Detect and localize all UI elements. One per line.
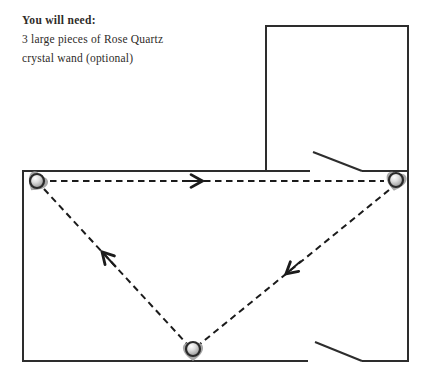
rose-quartz-icon <box>389 173 403 187</box>
crystal-top-right <box>384 171 408 193</box>
arrow-up-left-icon <box>103 253 116 267</box>
crystal-bottom-center <box>183 342 203 361</box>
arrow-down-left-icon <box>287 261 301 273</box>
lower-door-leaf <box>315 342 362 361</box>
book-page: You will need: 3 large pieces of Rose Qu… <box>0 0 428 379</box>
rose-quartz-icon <box>186 342 200 356</box>
rose-quartz-icon <box>30 174 44 188</box>
upper-door-leaf <box>313 152 362 171</box>
floor-plan-diagram <box>0 0 428 379</box>
